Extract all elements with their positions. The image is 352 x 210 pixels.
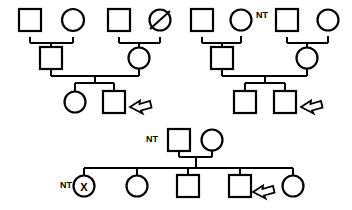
left-union-connectors: [51, 69, 139, 93]
nt-label-bottom-father: NT: [146, 134, 158, 144]
individual-L-III-1[interactable]: [65, 92, 86, 113]
individual-B-II-2[interactable]: X: [127, 176, 148, 197]
individual-R-III-1[interactable]: X: [234, 91, 256, 113]
right-gen1-connectors: [202, 36, 241, 47]
individual-LS-I-1[interactable]: [108, 9, 130, 31]
square-symbol-male[interactable]: [191, 9, 213, 31]
individual-B-II-5[interactable]: X: [283, 176, 304, 197]
bottom-pedigree-group: NT NT: [60, 129, 304, 199]
square-outline: [177, 175, 199, 197]
bottom-union-connectors: [84, 151, 293, 176]
proband-arrow-icon: [253, 186, 275, 199]
x-mark-label: X: [80, 181, 88, 193]
individual-B-I-2[interactable]: [202, 130, 223, 151]
circle-outline: [297, 48, 318, 69]
square-outline: [274, 91, 296, 113]
individual-RS-I-2[interactable]: [318, 10, 339, 31]
individual-B-I-1[interactable]: [168, 129, 190, 151]
individual-L-I-2[interactable]: [62, 9, 84, 31]
individual-R-III-2[interactable]: [274, 91, 296, 113]
individual-L-III-2[interactable]: [103, 91, 125, 113]
individual-R-II-1[interactable]: [211, 47, 233, 69]
square-symbol-male[interactable]: [168, 129, 190, 151]
rs-gen1-connectors: [287, 36, 328, 47]
individual-LS-II-1[interactable]: [129, 48, 150, 69]
nt-label-bottom-daughter: NT: [60, 180, 72, 190]
individual-L-I-1[interactable]: [19, 9, 41, 31]
individual-LS-I-2[interactable]: [150, 10, 171, 31]
right-spouse-family-group: [276, 9, 339, 69]
square-outline: [103, 91, 125, 113]
proband-arrow-icon: [301, 101, 323, 114]
individual-B-II-1[interactable]: X: [74, 176, 95, 197]
ls-gen1-connectors: [119, 37, 160, 47]
square-outline: [276, 9, 298, 31]
individual-B-II-4[interactable]: [229, 175, 251, 197]
circle-symbol-female[interactable]: [318, 10, 339, 31]
left-pedigree-group: [19, 9, 84, 69]
individual-RS-II-1[interactable]: [297, 48, 318, 69]
proband-arrow-left: [130, 101, 152, 114]
left-spouse-family-group: [108, 9, 171, 69]
circle-outline: [202, 130, 223, 151]
circle-symbol-female[interactable]: [231, 10, 252, 31]
circle-symbol-female[interactable]: [65, 92, 86, 113]
proband-arrow-right: [301, 101, 323, 114]
x-mark-label: X: [289, 181, 297, 193]
individual-B-II-3[interactable]: [177, 175, 199, 197]
individual-RS-I-1[interactable]: [276, 9, 298, 31]
individual-L-II-1[interactable]: [40, 47, 62, 69]
x-mark-label: X: [244, 93, 252, 105]
circle-outline: [129, 48, 150, 69]
circle-outline: [62, 9, 84, 31]
square-symbol-male[interactable]: [19, 9, 41, 31]
nt-label-right-top: NT: [256, 10, 268, 20]
right-union-connectors: [222, 69, 307, 92]
square-outline: [211, 47, 233, 69]
square-outline: [229, 175, 251, 197]
x-mark-label: X: [133, 181, 141, 193]
individual-R-I-2[interactable]: NT: [231, 10, 269, 31]
proband-arrow-bottom: [253, 186, 275, 199]
proband-arrow-icon: [130, 101, 152, 114]
square-outline: [40, 47, 62, 69]
left-gen1-connectors: [30, 37, 73, 47]
square-symbol-male[interactable]: [108, 9, 130, 31]
pedigree-canvas: NT: [0, 0, 352, 210]
pedigree-chart: NT: [0, 0, 352, 210]
individual-R-I-1[interactable]: [191, 9, 213, 31]
right-pedigree-group: NT: [191, 9, 268, 69]
